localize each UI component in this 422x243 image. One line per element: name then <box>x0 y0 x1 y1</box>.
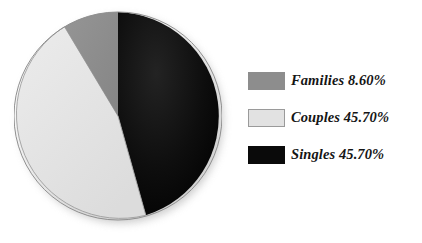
swatch-singles <box>248 146 285 164</box>
legend-label-couples: Couples 45.70% <box>291 109 389 126</box>
legend-label-singles: Singles 45.70% <box>291 146 384 163</box>
swatch-couples <box>248 109 285 127</box>
pie-slices <box>14 10 222 223</box>
legend-item-couples[interactable]: Couples 45.70% <box>248 99 418 136</box>
pie-chart-figure: Families 8.60% Couples 45.70% Singles 45… <box>0 0 422 243</box>
legend-item-singles[interactable]: Singles 45.70% <box>248 136 418 173</box>
pie-chart-graphic <box>14 10 222 223</box>
legend-label-families: Families 8.60% <box>291 72 386 89</box>
legend: Families 8.60% Couples 45.70% Singles 45… <box>248 62 418 173</box>
swatch-families <box>248 72 285 90</box>
legend-item-families[interactable]: Families 8.60% <box>248 62 418 99</box>
